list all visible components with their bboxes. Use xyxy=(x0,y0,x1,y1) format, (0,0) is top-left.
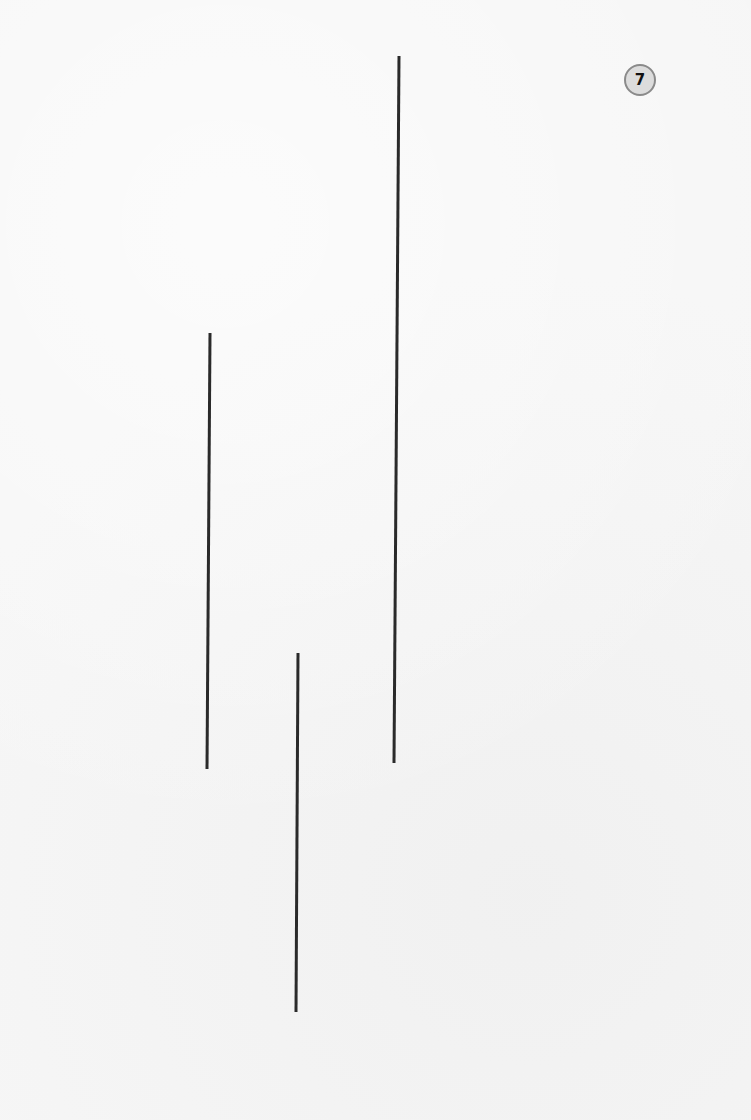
line-c xyxy=(394,56,399,763)
line-a xyxy=(207,333,210,769)
diagram-canvas xyxy=(0,0,751,1120)
line-b xyxy=(296,653,298,1012)
